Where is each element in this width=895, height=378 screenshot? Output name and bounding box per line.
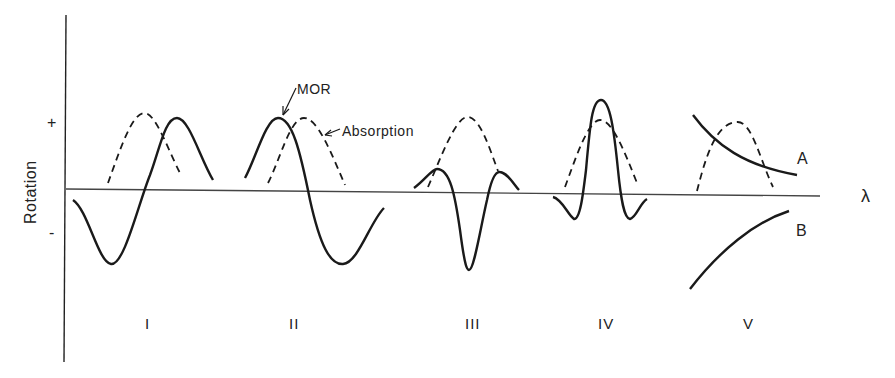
panel-v-curves [690, 115, 797, 289]
panel-i-curves [73, 113, 213, 264]
absorption-annotation: Absorption [342, 123, 414, 139]
lambda-axis [66, 189, 820, 196]
mor-annotation: MOR [297, 81, 331, 97]
lambda-label: λ [861, 186, 870, 207]
curve-a [693, 115, 797, 175]
curve-b [690, 211, 789, 289]
mor-diagram [0, 0, 895, 378]
y-plus-sign: + [47, 114, 56, 132]
y-axis-label: Rotation [22, 160, 40, 224]
mor-pointer-arrow [283, 88, 296, 115]
curve-a-label: A [797, 150, 808, 168]
panel-i-mor [73, 118, 213, 264]
panel-label-ii: II [289, 315, 299, 332]
panel-label-i: I [145, 315, 150, 332]
panel-label-iv: IV [598, 315, 614, 332]
panel-label-v: V [743, 315, 754, 332]
panel-label-iii: III [465, 315, 481, 332]
panel-iv-mor [553, 100, 647, 219]
panel-iv-curves [553, 100, 647, 219]
panel-iv-absorption [565, 120, 637, 187]
absorption-pointer-arrow [325, 129, 340, 135]
y-axis [64, 15, 66, 362]
y-minus-sign: - [49, 224, 54, 242]
panel-ii-curves [245, 88, 384, 264]
curve-b-label: B [796, 222, 807, 240]
mor-pointer-arrowhead [283, 106, 289, 115]
panel-ii-absorption [268, 118, 345, 185]
panel-iii-absorption [428, 117, 498, 187]
